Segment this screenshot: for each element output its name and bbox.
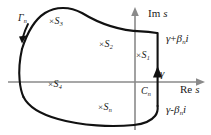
- imaginary-axis-variable: s: [163, 7, 167, 19]
- lower-endpoint-beta: β: [174, 103, 179, 115]
- singularity-cross-icon: ×: [49, 16, 54, 26]
- lower-endpoint-label: γ-βni: [166, 104, 186, 115]
- gamma-n-symbol: Γ: [18, 12, 24, 23]
- imaginary-axis-label-text: Im: [148, 7, 160, 19]
- upper-endpoint-subscript: n: [182, 38, 185, 45]
- singularity-cross-icon: ×: [98, 102, 103, 112]
- singularity-subscript: 4: [59, 83, 62, 90]
- singularity-s1: ×S1: [136, 50, 150, 60]
- singularity-sn: ×Sn: [98, 102, 112, 112]
- real-axis-variable: s: [195, 83, 199, 95]
- c-n-subscript: n: [148, 90, 151, 97]
- gamma-symbol: γ: [160, 67, 164, 79]
- singularity-s4: ×S4: [48, 79, 62, 89]
- c-n-symbol: C: [141, 85, 148, 96]
- gamma-n-subscript: n: [24, 17, 27, 24]
- singularity-symbol: S: [55, 15, 60, 26]
- upper-endpoint-i: i: [186, 32, 189, 44]
- singularity-symbol: S: [142, 49, 147, 60]
- closed-contour-path: [19, 8, 157, 126]
- singularity-subscript: 2: [110, 43, 113, 50]
- gamma-real-axis-label: γ: [160, 68, 164, 79]
- upper-endpoint-label: γ+βni: [166, 33, 189, 44]
- singularity-s2: ×S2: [99, 39, 113, 49]
- real-axis-label-text: Re: [180, 83, 192, 95]
- singularity-symbol: S: [104, 101, 109, 112]
- real-axis-label: Res: [180, 84, 200, 95]
- singularity-subscript: 1: [147, 54, 150, 61]
- singularity-cross-icon: ×: [48, 79, 53, 89]
- imaginary-axis-label: Ims: [148, 8, 168, 19]
- singularity-cross-icon: ×: [99, 39, 104, 49]
- singularity-cross-icon: ×: [136, 50, 141, 60]
- gamma-n-contour-label: Γn: [18, 13, 27, 23]
- singularity-s3: ×S3: [49, 16, 63, 26]
- singularity-subscript: 3: [60, 20, 63, 27]
- lower-endpoint-i: i: [183, 103, 186, 115]
- singularity-symbol: S: [54, 78, 59, 89]
- singularity-symbol: S: [105, 38, 110, 49]
- gamma-n-direction-arrow: [19, 24, 28, 44]
- complex-plane-contour-figure: Γn Cn Ims Res γ+βni γ-βni γ ×S1 ×S2 ×S3 …: [0, 0, 211, 135]
- c-n-contour-label: Cn: [141, 86, 151, 96]
- lower-endpoint-subscript: n: [180, 109, 183, 116]
- singularity-subscript: n: [109, 106, 112, 113]
